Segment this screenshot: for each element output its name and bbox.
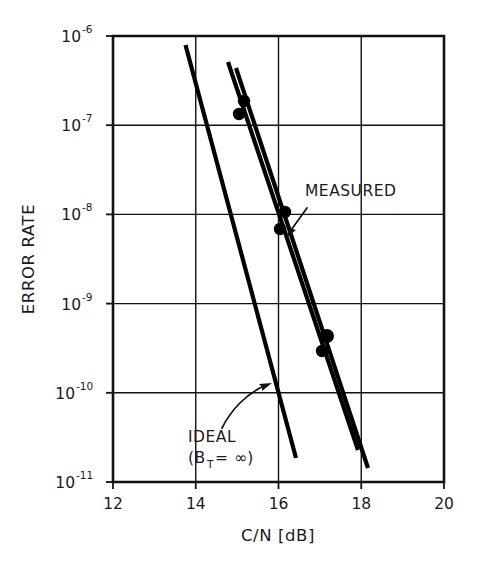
ticklabel-y-1e-11-exponent: -11: [76, 469, 93, 481]
x-axis-title: C/N [dB]: [241, 526, 315, 545]
ticklabel-y-1e-7-exponent: -7: [82, 112, 92, 124]
ticklabel-y-1e-10: 10 -10: [55, 380, 93, 403]
ticklabel-y-1e-6: 10 -6: [61, 23, 93, 46]
datapoint-5: [320, 329, 334, 343]
ticklabel-y-1e-11-mantissa: 10: [55, 474, 75, 492]
y-axis-tick-labels: 10 -6 10 -7 10 -8 10 -9 10 -10 10 -11: [55, 23, 93, 492]
ticklabel-y-1e-7: 10 -7: [61, 112, 92, 135]
datapoint-6: [316, 345, 328, 357]
datapoint-1: [238, 95, 250, 107]
ticklabel-y-1e-10-exponent: -10: [76, 380, 93, 392]
ideal-condition-rest: = ∞): [215, 449, 254, 467]
datapoint-3: [279, 206, 291, 218]
ticklabel-y-1e-8-mantissa: 10: [61, 206, 81, 224]
ticklabel-y-1e-9-mantissa: 10: [61, 296, 81, 314]
ideal-condition-open: (B: [188, 449, 206, 467]
datapoint-4: [274, 223, 286, 235]
ticklabel-x-14: 14: [186, 495, 206, 513]
ticklabel-x-16: 16: [269, 495, 289, 513]
ideal-condition-subscript: T: [206, 458, 214, 470]
datapoint-2: [233, 108, 245, 120]
ticklabel-y-1e-9-exponent: -9: [82, 291, 92, 303]
ticklabel-y-1e-10-mantissa: 10: [55, 385, 75, 403]
ticklabel-x-12: 12: [103, 495, 123, 513]
x-axis-tick-labels: 12 14 16 18 20: [103, 495, 454, 513]
measured-label: MEASURED: [305, 182, 396, 200]
chart-svg: 12 14 16 18 20 10 -6 10 -7 10 -8 10 -9: [0, 0, 479, 571]
ticklabel-y-1e-6-mantissa: 10: [61, 28, 81, 46]
ideal-condition-label: (B T = ∞): [188, 449, 254, 470]
error-rate-chart-figure: 12 14 16 18 20 10 -6 10 -7 10 -8 10 -9: [0, 0, 479, 571]
ticklabel-y-1e-8: 10 -8: [61, 201, 92, 224]
ticklabel-y-1e-6-exponent: -6: [82, 23, 93, 35]
ticklabel-y-1e-8-exponent: -8: [82, 201, 92, 213]
ticklabel-y-1e-9: 10 -9: [61, 291, 92, 314]
ticklabel-y-1e-11: 10 -11: [55, 469, 93, 492]
ticklabel-x-20: 20: [434, 495, 454, 513]
ticklabel-y-1e-7-mantissa: 10: [61, 117, 81, 135]
ticklabel-x-18: 18: [351, 495, 371, 513]
y-axis-title: ERROR RATE: [19, 204, 38, 314]
ideal-label: IDEAL: [188, 428, 236, 446]
